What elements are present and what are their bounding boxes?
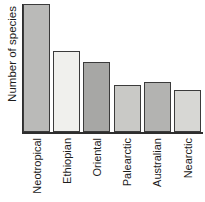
x-tick-label-palearctic: Palearctic [120,138,134,186]
bar-palearctic [114,85,141,132]
bar-oriental [83,62,110,132]
y-axis-label: Number of species [5,6,19,102]
x-tick-label-oriental: Oriental [90,138,104,177]
x-tick-label-australian: Australian [150,138,164,187]
bar-australian [144,82,171,132]
bar-ethiopian [53,51,80,132]
bar-nearctic [174,90,201,132]
x-tick-label-ethiopian: Ethiopian [60,138,74,184]
x-tick-label-neotropical: Neotropical [30,138,44,194]
x-axis-line [22,132,203,134]
x-tick-label-nearctic: Nearctic [181,138,195,178]
bar-neotropical [23,4,50,132]
bar-chart-figure: Number of species NeotropicalEthiopianOr… [0,0,205,202]
